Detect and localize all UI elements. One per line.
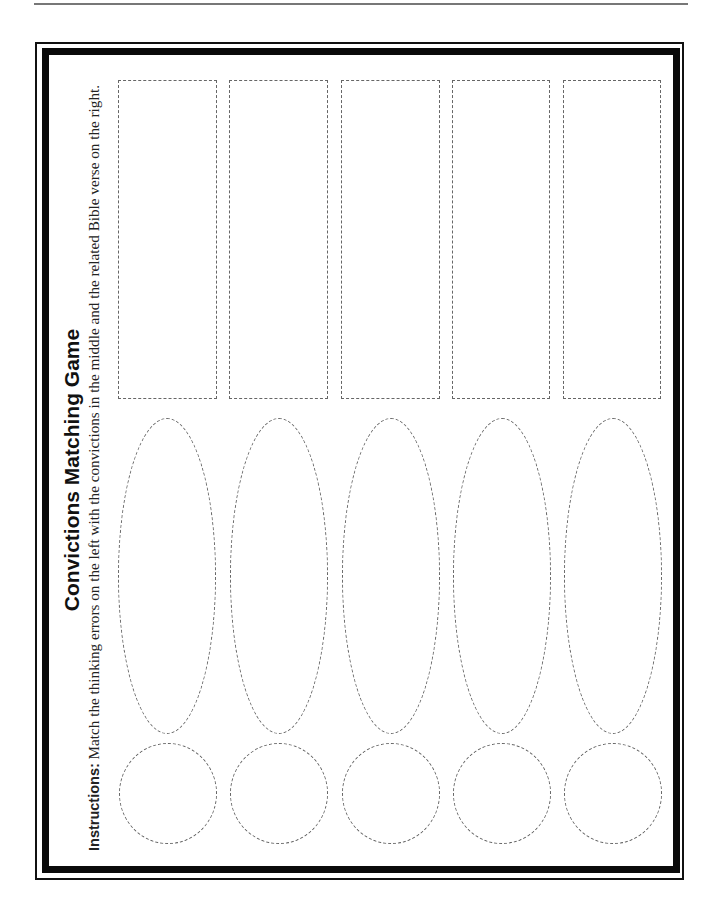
instructions: Instructions: Match the thinking errors … [85, 85, 103, 851]
page-title: Convictions Matching Game [60, 329, 84, 611]
conviction-oval-1[interactable] [118, 418, 216, 734]
conviction-oval-5[interactable] [564, 418, 662, 734]
bible-verse-box-3[interactable] [341, 80, 440, 399]
conviction-oval-4[interactable] [453, 418, 551, 734]
conviction-oval-3[interactable] [342, 418, 440, 734]
thinking-error-circle-5[interactable] [564, 743, 662, 844]
instructions-container: Instructions: Match the thinking errors … [84, 76, 104, 860]
thinking-error-circle-4[interactable] [453, 743, 551, 844]
instructions-label: Instructions: [86, 763, 102, 851]
bible-verse-box-5[interactable] [563, 80, 661, 399]
instructions-text: Match the thinking errors on the left wi… [85, 85, 102, 763]
conviction-oval-2[interactable] [230, 418, 328, 734]
bible-verse-box-4[interactable] [452, 80, 550, 399]
bible-verse-box-1[interactable] [118, 80, 217, 399]
page-header-rule [34, 3, 688, 5]
thinking-error-circle-2[interactable] [230, 743, 328, 844]
title-container: Convictions Matching Game [60, 80, 84, 860]
thinking-error-circle-3[interactable] [342, 743, 440, 844]
bible-verse-box-2[interactable] [229, 80, 328, 399]
thinking-error-circle-1[interactable] [119, 743, 217, 844]
